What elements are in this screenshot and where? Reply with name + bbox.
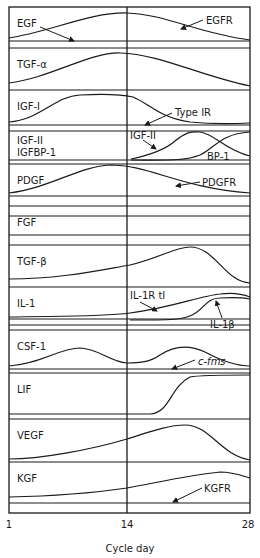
egfr-label: EGFR [206, 15, 233, 26]
row-label-csf-1: CSF-1 [17, 341, 46, 352]
x-axis-title: Cycle day [106, 543, 155, 554]
c-fms-label: c-fms [198, 356, 226, 367]
annotations: EGFRType IRIGF-IIBP-1PDGFRIL-1R tIIL-1βc… [130, 15, 236, 494]
tick-label-1: 1 [6, 519, 12, 530]
x-axis: Cycle day 11428 [6, 519, 255, 554]
arrows [40, 20, 222, 502]
row-label-lif: LIF [17, 384, 32, 395]
il-1b-label: IL-1β [210, 319, 235, 330]
il-1r-tl-label: IL-1R tI [130, 290, 165, 301]
kgfr-arrow [173, 488, 202, 502]
cycle-diagram: EGFTGF-αIGF-IIGF-IIIGFBP-1PDGFFGFTGF-βIL… [0, 0, 260, 558]
type-ir-arrow [145, 113, 172, 125]
row-label-pdgf: PDGF [17, 175, 44, 186]
egf-arrow [40, 27, 74, 41]
igf-ii-arrow [143, 140, 156, 149]
row-label-igf-ii: IGF-II [17, 135, 43, 146]
row-label-tgf-alpha: TGF-α [16, 59, 47, 70]
row-label-igf-i: IGF-I [17, 101, 40, 112]
kgfr-label: KGFR [204, 483, 231, 494]
bp-1-label: BP-1 [207, 151, 230, 162]
c-fms-arrow [172, 360, 195, 369]
row-label-igf-ii-2: IGFBP-1 [17, 147, 56, 158]
row-label-egf: EGF [17, 18, 37, 29]
igf-ii-annot-label: IGF-II [130, 130, 156, 141]
curves [9, 13, 250, 497]
vegf-curve [9, 425, 250, 460]
tick-label-14: 14 [121, 519, 134, 530]
il-1b-arrow [216, 301, 222, 318]
pdgfr-label: PDGFR [202, 177, 236, 188]
row-label-vegf: VEGF [17, 430, 44, 441]
lif-curve [9, 375, 250, 414]
row-label-fgf: FGF [17, 217, 37, 228]
row-label-il-1: IL-1 [17, 298, 35, 309]
tick-label-28: 28 [242, 519, 255, 530]
row-label-kgf: KGF [17, 473, 37, 484]
row-label-tgf-beta: TGF-β [16, 256, 47, 267]
type-ir-label: Type IR [174, 107, 211, 118]
igf-i-curve [9, 94, 250, 123]
